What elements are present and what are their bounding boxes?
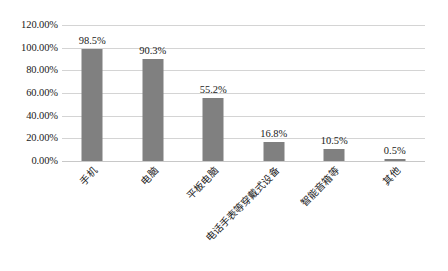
bar-value-label: 10.5% [321,135,348,146]
bar-slot: 16.8% [244,25,305,161]
y-axis-tick-label: 20.00% [0,133,58,144]
y-axis-tick-label: 80.00% [0,65,58,76]
bar-value-label: 16.8% [260,128,287,139]
y-axis-tick-label: 60.00% [0,88,58,99]
plot-area: 98.5%90.3%55.2%16.8%10.5%0.5% [62,25,425,161]
bar-value-label: 90.3% [139,45,166,56]
bar-slot: 10.5% [304,25,365,161]
bar-slot: 90.3% [123,25,184,161]
bar [324,149,345,161]
x-axis-tick-label: 手机 [78,165,100,187]
x-axis-tick-label: 平板电脑 [185,165,221,201]
bar-value-label: 55.2% [200,84,227,95]
y-axis-tick-label: 40.00% [0,110,58,121]
x-axis-label-slot: 智能音箱等 [304,163,365,268]
bar [82,49,103,161]
x-axis-label-slot: 电话手表等穿戴式设备 [244,163,305,268]
bar-slot: 98.5% [62,25,123,161]
y-axis-tick-label: 0.00% [0,156,58,167]
x-axis-label-slot: 手机 [62,163,123,268]
bar-slot: 55.2% [183,25,244,161]
x-axis-tick-label: 电脑 [139,165,161,187]
x-axis-label-slot: 电脑 [123,163,184,268]
bar [142,59,163,161]
bar-slot: 0.5% [365,25,426,161]
y-axis: 0.00%20.00%40.00%60.00%80.00%100.00%120.… [0,25,58,161]
x-axis: 手机电脑平板电脑电话手表等穿戴式设备智能音箱等其他 [62,163,425,268]
y-axis-tick-label: 120.00% [0,20,58,31]
bar-chart: 0.00%20.00%40.00%60.00%80.00%100.00%120.… [0,0,448,271]
bar [384,159,405,161]
bar-value-label: 0.5% [384,145,406,156]
y-axis-tick-label: 100.00% [0,42,58,53]
bar [203,98,224,161]
x-axis-tick-label: 智能音箱等 [299,165,342,208]
axis-baseline [62,161,425,162]
x-axis-label-slot: 其他 [365,163,426,268]
bar-value-label: 98.5% [79,35,106,46]
x-axis-tick-label: 其他 [381,165,403,187]
bar [263,142,284,161]
